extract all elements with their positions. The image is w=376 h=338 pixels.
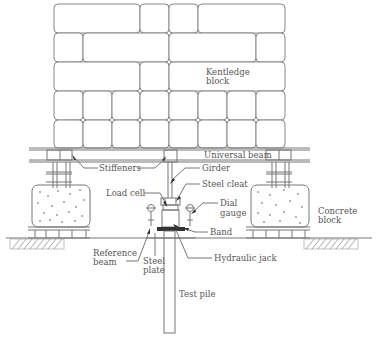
concrete-block-label-2: block bbox=[318, 215, 342, 225]
test-pile-label: Test pile bbox=[179, 289, 215, 299]
ground bbox=[6, 238, 372, 249]
left-concrete-dots bbox=[37, 189, 85, 223]
girder bbox=[168, 162, 172, 198]
stiffeners-label: Stiffeners bbox=[99, 163, 141, 173]
dial-gauge-label-1: Dial bbox=[220, 198, 238, 208]
band-leader bbox=[186, 229, 208, 232]
right-concrete-dots bbox=[257, 189, 303, 224]
universal-beam-label: Universal beam bbox=[204, 150, 272, 160]
girder-leader bbox=[172, 168, 200, 180]
test-pile bbox=[164, 231, 175, 333]
band-label: Band bbox=[210, 227, 233, 237]
girder-label: Girder bbox=[202, 163, 231, 173]
load-cell-label: Load cell bbox=[106, 188, 145, 198]
steel-plate-label-2: plate bbox=[143, 265, 165, 275]
dial-gauge-leader bbox=[193, 203, 218, 212]
hydraulic-jack-label: Hydraulic jack bbox=[214, 253, 278, 263]
reference-beam-arrow bbox=[147, 228, 150, 234]
load-cell-leader bbox=[144, 193, 166, 204]
hydraulic-jack bbox=[157, 210, 185, 231]
dial-gauge-label-2: gauge bbox=[220, 208, 246, 218]
left-support bbox=[28, 162, 90, 238]
kentledge-block-stack bbox=[54, 4, 285, 148]
pile-load-test-diagram: Kentledge block Universal beam Stiffener… bbox=[0, 0, 376, 338]
steel-cleat-leader bbox=[178, 184, 200, 198]
right-support bbox=[246, 162, 310, 238]
load-cell-arrow bbox=[163, 201, 167, 207]
dial-gauge-left bbox=[146, 205, 156, 227]
reference-beam-label-2: beam bbox=[93, 257, 117, 267]
dial-gauge-right bbox=[185, 205, 195, 227]
steel-cleat-label: Steel cleat bbox=[202, 179, 248, 189]
hydraulic-jack-leader bbox=[176, 230, 212, 258]
kentledge-label-2: block bbox=[206, 76, 230, 86]
